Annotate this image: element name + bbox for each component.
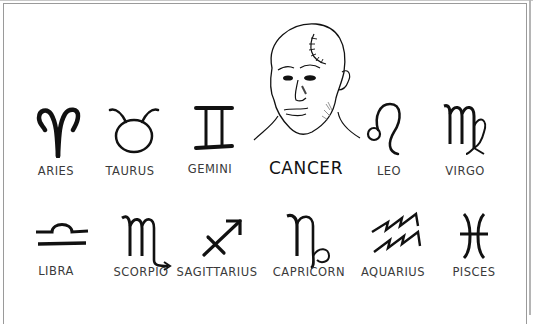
capricorn-icon <box>285 210 337 270</box>
taurus-icon <box>106 102 162 157</box>
sign-label-aquarius: AQUARIUS <box>361 265 425 279</box>
sign-label-aries: ARIES <box>38 164 74 178</box>
sign-label-scorpio: SCORPIO <box>113 265 168 279</box>
aries-icon <box>33 100 83 158</box>
sagittarius-icon <box>200 215 244 259</box>
sign-label-cancer: CANCER <box>269 158 343 178</box>
sign-label-gemini: GEMINI <box>188 162 233 176</box>
libra-icon <box>34 216 90 250</box>
outer-right-border <box>529 0 531 315</box>
sign-label-pisces: PISCES <box>452 265 495 279</box>
sign-label-capricorn: CAPRICORN <box>273 265 345 279</box>
bald-man-portrait <box>252 20 362 154</box>
sign-label-taurus: TAURUS <box>105 164 154 178</box>
scorpio-icon <box>118 210 174 272</box>
sign-label-libra: LIBRA <box>38 264 74 278</box>
outer-top-border <box>0 0 533 1</box>
gemini-icon <box>192 102 236 154</box>
virgo-icon <box>440 96 490 158</box>
aquarius-icon <box>368 210 430 256</box>
pisces-icon <box>458 210 490 262</box>
sign-label-sagittarius: SAGITTARIUS <box>177 265 258 279</box>
sign-label-leo: LEO <box>377 164 401 178</box>
leo-icon <box>364 98 404 158</box>
sign-label-virgo: VIRGO <box>445 164 485 178</box>
